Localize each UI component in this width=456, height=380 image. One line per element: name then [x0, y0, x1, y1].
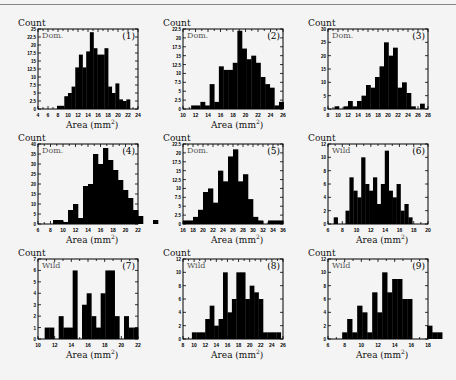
histogram-bar	[242, 49, 247, 109]
histogram-bar	[112, 93, 116, 109]
histogram-bar	[94, 48, 98, 109]
histogram-bar	[68, 328, 73, 339]
y-tick-label: 2.5	[30, 99, 37, 104]
y-tick-label: 15	[31, 59, 37, 64]
histogram-panel-5: Count02.557.51012.51517.52022.5161820222…	[163, 133, 313, 251]
histogram-panel-6: Count02468101268101214161820Wild(6)Area …	[308, 133, 456, 251]
y-tick-label: 25	[31, 27, 37, 32]
histogram-bar	[273, 220, 278, 224]
histogram-bar	[245, 299, 250, 339]
y-tick-label: 10	[321, 270, 327, 275]
histogram-bar	[254, 292, 259, 339]
histogram-panel-8: Count0246810128101214161820222426Wild(8)…	[163, 248, 313, 366]
x-tick-label: 20	[385, 112, 391, 118]
histogram-bar	[392, 279, 397, 339]
histogram-bar	[389, 191, 393, 224]
group-label: Dom.	[42, 31, 63, 40]
y-tick-label: 22.5	[27, 35, 36, 40]
histogram-bar	[375, 77, 380, 109]
x-axis-title: Area (mm2)	[66, 118, 118, 130]
y-tick-label: 4	[33, 291, 36, 296]
x-tick-label: 22	[135, 342, 141, 348]
histogram-bar	[420, 104, 425, 109]
y-tick-label: 10	[321, 80, 327, 85]
histogram-bar	[402, 82, 407, 109]
y-tick-label: 25	[31, 172, 37, 177]
histogram-bar	[138, 216, 143, 224]
y-tick-label: 15	[31, 192, 37, 197]
y-tick-label: 7	[33, 257, 36, 262]
histogram-panel-4: Count05101520253035406810121416182022Dom…	[18, 133, 168, 251]
histogram-bar	[377, 204, 381, 224]
y-tick-label: 2	[323, 324, 326, 329]
y-tick-label: 17.5	[172, 45, 181, 50]
x-tick-label: 8	[49, 227, 52, 233]
histogram-bar	[357, 306, 362, 339]
x-tick-label: 20	[425, 227, 431, 233]
panel-number: (2)	[267, 31, 280, 41]
histogram-bar	[79, 55, 83, 109]
histogram-bar	[233, 149, 238, 224]
group-label: Wild	[187, 261, 205, 270]
x-tick-label: 16	[180, 227, 186, 233]
histogram-plot: 051015202530810121416182022242628Dom.(3)	[308, 18, 456, 136]
histogram-bar	[389, 56, 394, 109]
y-tick-label: 10	[176, 71, 182, 76]
x-tick-label: 24	[268, 112, 274, 118]
histogram-bar	[402, 299, 407, 339]
y-tick-label: 17.5	[27, 51, 36, 56]
x-tick-label: 12	[52, 342, 58, 348]
histogram-bar	[243, 174, 248, 224]
histogram-panel-2: Count02.557.51012.51517.52022.5101214161…	[163, 18, 313, 136]
histogram-bar	[349, 177, 353, 224]
y-tick-label: 12	[321, 257, 327, 262]
y-tick-label: 20	[31, 43, 37, 48]
x-axis-title: Area (mm2)	[211, 233, 263, 245]
x-tick-label: 24	[135, 112, 141, 118]
y-tick-label: 5	[33, 280, 36, 285]
x-tick-label: 6	[327, 342, 330, 348]
panel-number: (5)	[267, 146, 280, 156]
histogram-panel-3: Count051015202530810121416182022242628Do…	[308, 18, 456, 136]
histogram-bar	[196, 332, 201, 339]
y-tick-label: 20	[176, 151, 182, 156]
group-label: Dom.	[42, 146, 63, 155]
y-tick-label: 22.5	[172, 142, 181, 147]
histogram-bar	[380, 66, 385, 109]
y-tick-label: 20	[321, 54, 327, 59]
histogram-bar	[407, 93, 412, 109]
y-tick-label: 10	[31, 75, 37, 80]
histogram-bar	[393, 48, 398, 109]
y-tick-label: 2.5	[175, 98, 182, 103]
histogram-bar	[362, 96, 367, 109]
x-tick-label: 20	[119, 342, 125, 348]
histogram-bar	[97, 55, 101, 109]
histogram-bar	[219, 66, 224, 109]
x-axis-title: Area (mm2)	[356, 233, 408, 245]
y-tick-label: 12.5	[172, 63, 181, 68]
histogram-bar	[213, 203, 218, 224]
y-tick-label: 20	[176, 36, 182, 41]
y-tick-label: 6	[323, 297, 326, 302]
y-tick-label: 30	[321, 27, 327, 32]
histogram-bar	[68, 93, 72, 109]
histogram-bar	[258, 220, 263, 224]
y-tick-label: 5	[33, 91, 36, 96]
histogram-bar	[90, 32, 94, 109]
group-label: Dom.	[187, 31, 208, 40]
y-tick-label: 10	[321, 155, 327, 160]
x-tick-label: 8	[57, 112, 60, 118]
x-tick-label: 22	[135, 227, 141, 233]
histogram-bar	[91, 316, 96, 339]
histogram-bar	[108, 87, 112, 109]
histogram-bar	[183, 220, 188, 224]
histogram-bar	[53, 220, 58, 224]
y-tick-label: 5	[323, 94, 326, 99]
x-tick-label: 20	[200, 227, 206, 233]
x-tick-label: 6	[37, 227, 40, 233]
histogram-bar	[223, 272, 228, 339]
x-tick-label: 18	[190, 227, 196, 233]
x-tick-label: 26	[415, 112, 421, 118]
y-tick-label: 4	[178, 310, 181, 315]
y-tick-label: 5	[178, 204, 181, 209]
